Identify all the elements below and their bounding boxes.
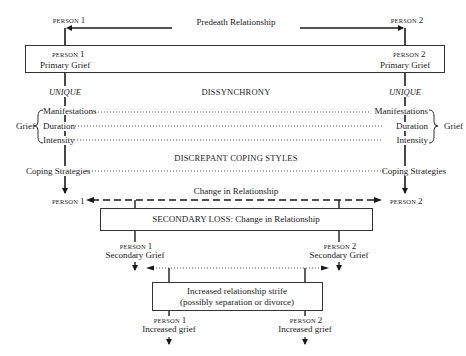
change-person1-label: PERSON 1	[52, 197, 85, 206]
primary-grief-right: Primary Grief	[380, 61, 430, 70]
coping-strategies-right: Coping Strategies	[382, 167, 446, 176]
coping-strategies-left: Coping Strategies	[26, 167, 90, 176]
intensity-right: Intensity	[397, 136, 429, 145]
secondary-loss-label: SECONDARY LOSS: Change in Relationship	[152, 215, 320, 224]
grief-left-label: Grief	[16, 122, 35, 131]
predeath-relationship-label: Predeath Relationship	[196, 18, 275, 27]
predeath-relationship-connector	[65, 25, 405, 46]
grief-brace-left	[34, 110, 43, 143]
secondary-grief-right: Secondary Grief	[309, 251, 368, 260]
duration-right: Duration	[396, 122, 428, 131]
duration-left: Duration	[43, 122, 75, 131]
grief-right-label: Grief	[444, 122, 463, 131]
manifestations-left: Manifestations	[43, 107, 97, 116]
change-in-relationship-label: Change in Relationship	[194, 187, 279, 196]
top-person1-label: PERSON 1	[53, 16, 86, 25]
unique-left-label: UNIQUE	[49, 88, 81, 97]
discrepant-coping-styles-label: DISCREPANT COPING STYLES	[174, 154, 297, 163]
intensity-left: Intensity	[43, 136, 75, 145]
primary-person2-label: PERSON 2	[393, 50, 426, 59]
primary-person1-label: PERSON 1	[52, 50, 85, 59]
unique-right-label: UNIQUE	[389, 88, 421, 97]
manifestations-right: Manifestations	[375, 107, 429, 116]
top-person2-label: PERSON 2	[391, 16, 424, 25]
increased-grief-left: Increased grief	[142, 325, 196, 334]
strife-connector	[146, 266, 329, 284]
strife-line1: Increased relationship strife	[187, 287, 287, 296]
secondary-grief-left: Secondary Grief	[105, 251, 164, 260]
change-person2-label: PERSON 2	[390, 197, 423, 206]
increased-grief-right: Increased grief	[278, 325, 332, 334]
grief-brace-right	[429, 110, 438, 143]
primary-grief-left: Primary Grief	[40, 61, 90, 70]
strife-line2: (possibly separation or divorce)	[180, 298, 294, 307]
dissynchrony-label: DISSYNCHRONY	[202, 88, 271, 97]
